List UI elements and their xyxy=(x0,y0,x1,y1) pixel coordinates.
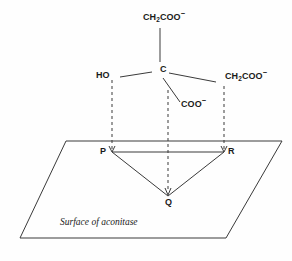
label-central-carbon: C xyxy=(160,65,167,74)
aconitase-binding-diagram: CH2COO− HO C CH2COO− COO− P Q R Surface … xyxy=(0,0,292,261)
label-upper-ch2coo: CH2COO− xyxy=(143,13,185,22)
label-binding-point-p: P xyxy=(100,147,106,156)
label-binding-point-r: R xyxy=(228,147,235,156)
label-right-ch2coo: CH2COO− xyxy=(225,72,267,81)
label-binding-point-q: Q xyxy=(165,198,172,207)
surface-caption: Surface of aconitase xyxy=(60,218,138,228)
label-hydroxyl: HO xyxy=(96,71,110,80)
bond-c-to-hydroxyl xyxy=(120,72,152,77)
bond-c-to-right-ch2coo xyxy=(169,73,216,82)
bond-c-to-carboxylate xyxy=(163,78,180,102)
label-carboxylate: COO− xyxy=(181,100,206,109)
diagram-canvas xyxy=(0,0,292,261)
